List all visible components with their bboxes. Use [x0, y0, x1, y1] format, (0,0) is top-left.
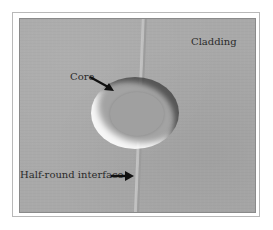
interface-arrow-icon: [110, 170, 136, 182]
core-center: [110, 92, 164, 136]
half-round-interface-label: Half-round interface: [20, 170, 123, 180]
micrograph-image: [19, 18, 256, 213]
cladding-label: Cladding: [191, 37, 237, 47]
core-arrow-icon: [88, 74, 118, 94]
